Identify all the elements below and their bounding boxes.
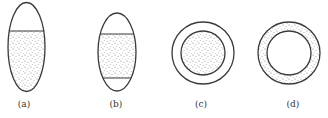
panel-d: (d) bbox=[255, 19, 323, 109]
panel-label: (c) bbox=[195, 99, 207, 109]
panel-c: (c) bbox=[172, 22, 234, 109]
inner-stippled-disc bbox=[181, 31, 225, 75]
panel-label: (d) bbox=[287, 99, 300, 109]
cell-diagram: (a) (b) (c) (d) bbox=[0, 0, 328, 118]
panel-label: (b) bbox=[110, 99, 123, 109]
panel-label: (a) bbox=[18, 99, 30, 109]
panel-a: (a) bbox=[0, 3, 60, 110]
inner-blank-disc bbox=[267, 31, 311, 75]
panel-b: (b) bbox=[95, 13, 140, 109]
